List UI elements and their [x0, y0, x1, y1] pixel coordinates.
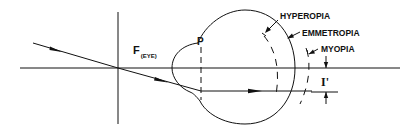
myopia-retina-arc [300, 50, 309, 104]
hyperopia-label: HYPEROPIA [280, 11, 330, 21]
eye-optics-diagram: F(EYE) P HYPEROPIA EMMETROPIA MYOPIA I' [0, 0, 418, 134]
focal-point-label: F(EYE) [133, 44, 157, 59]
hyperopia-tick [262, 33, 266, 36]
myopia-label: MYOPIA [321, 44, 355, 54]
hyperopia-retina-arc [264, 36, 278, 95]
eye-outline [172, 10, 295, 124]
incident-ray [33, 43, 118, 68]
focal-point-letter: F [133, 44, 140, 56]
focal-point-subscript: (EYE) [141, 53, 157, 59]
myopia-leader-arrowhead [309, 50, 315, 55]
incident-ray-arrowhead [50, 47, 63, 53]
image-height-arrow-top-head [324, 62, 328, 68]
image-ray-arrowhead [248, 89, 262, 93]
principal-plane-label: P [197, 36, 204, 47]
emmetropia-label: EMMETROPIA [302, 28, 360, 38]
image-height-label: I' [321, 75, 329, 89]
refracted-ray-arrowhead [154, 77, 168, 83]
image-height-arrow-bottom-head [324, 92, 328, 98]
